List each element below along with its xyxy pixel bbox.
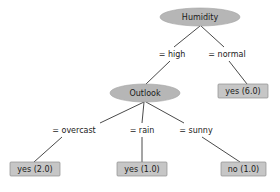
leaf-node-yes2[interactable]: yes (2.0)	[10, 162, 60, 176]
decision-tree-diagram: Humidity Outlook yes (6.0) yes (2.0) yes…	[0, 0, 280, 192]
leaf-node-yes1[interactable]: yes (1.0)	[117, 162, 167, 176]
leaf-node-yes6[interactable]: yes (6.0)	[218, 84, 268, 98]
edge-label-normal: = normal	[208, 50, 245, 59]
edge-label-overcast: = overcast	[52, 126, 96, 135]
outlook-label: Outlook	[129, 89, 161, 98]
yes1-label: yes (1.0)	[124, 165, 159, 174]
decision-node-humidity[interactable]: Humidity	[160, 8, 240, 26]
edge-label-sunny: = sunny	[179, 126, 213, 135]
decision-node-outlook[interactable]: Outlook	[110, 84, 180, 102]
edge-label-high: = high	[159, 50, 186, 59]
humidity-label: Humidity	[182, 13, 219, 22]
yes2-label: yes (2.0)	[17, 165, 52, 174]
yes6-label: yes (6.0)	[225, 87, 260, 96]
no1-label: no (1.0)	[228, 165, 259, 174]
leaf-node-no1[interactable]: no (1.0)	[221, 162, 266, 176]
edge-label-rain: = rain	[130, 126, 155, 135]
